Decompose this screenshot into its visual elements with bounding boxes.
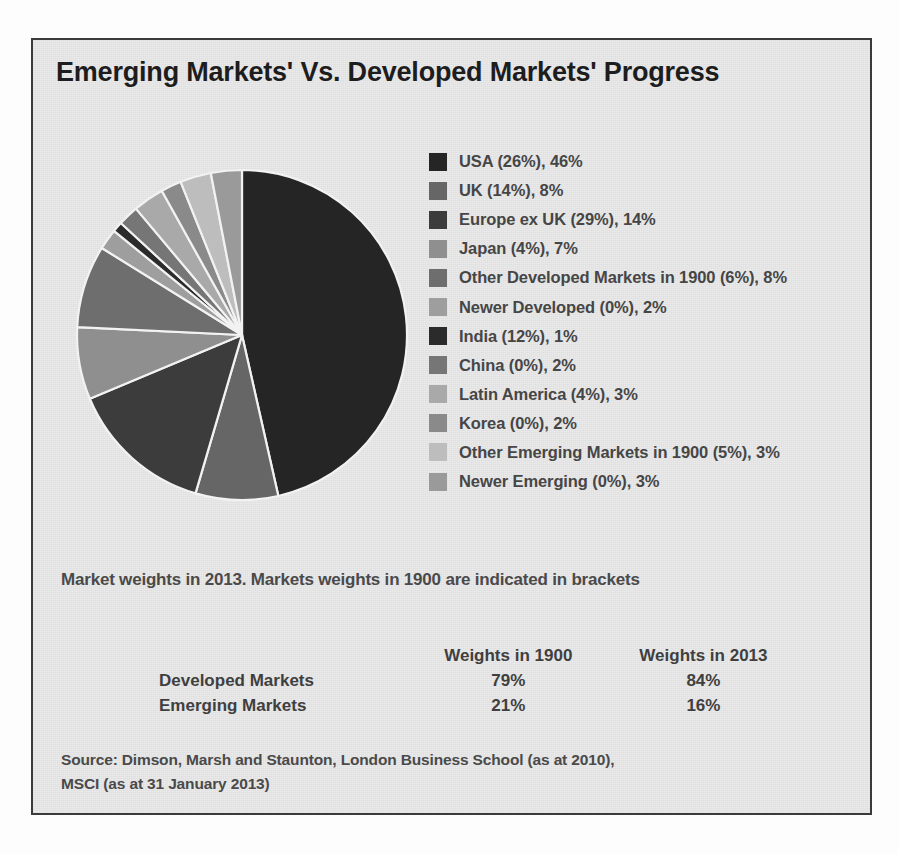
source-line-1: Source: Dimson, Marsh and Staunton, Lond…: [61, 748, 781, 772]
legend-color-swatch: [429, 211, 447, 229]
legend-color-swatch: [429, 356, 447, 374]
legend-item-label: USA (26%), 46%: [459, 152, 583, 171]
source-note: Source: Dimson, Marsh and Staunton, Lond…: [61, 748, 781, 796]
legend-item: China (0%), 2%: [429, 351, 859, 380]
legend-item-label: UK (14%), 8%: [459, 181, 563, 200]
column-header-weights-1900: Weights in 1900: [411, 643, 606, 668]
legend-item: UK (14%), 8%: [429, 176, 859, 205]
legend-item-label: Newer Emerging (0%), 3%: [459, 472, 659, 491]
legend-item: Other Developed Markets in 1900 (6%), 8%: [429, 263, 859, 292]
cell-weights-2013: 84%: [606, 668, 801, 693]
legend-item-label: Latin America (4%), 3%: [459, 385, 638, 404]
legend-item-label: India (12%), 1%: [459, 327, 578, 346]
legend-color-swatch: [429, 182, 447, 200]
source-line-2: MSCI (as at 31 January 2013): [61, 772, 781, 796]
cell-weights-1900: 79%: [411, 668, 606, 693]
table-row: Emerging Markets21%16%: [61, 693, 801, 718]
legend-item-label: Other Developed Markets in 1900 (6%), 8%: [459, 268, 787, 287]
cell-weights-1900: 21%: [411, 693, 606, 718]
legend-color-swatch: [429, 240, 447, 258]
column-header-blank: [61, 643, 411, 668]
weights-table-head: Weights in 1900 Weights in 2013: [61, 643, 801, 668]
legend-color-swatch: [429, 153, 447, 171]
legend-item: Newer Developed (0%), 2%: [429, 292, 859, 321]
legend-item: Korea (0%), 2%: [429, 409, 859, 438]
cell-weights-2013: 16%: [606, 693, 801, 718]
legend-item-label: Japan (4%), 7%: [459, 239, 578, 258]
legend-color-swatch: [429, 414, 447, 432]
legend-item-label: Newer Developed (0%), 2%: [459, 298, 667, 317]
chart-caption: Market weights in 2013. Markets weights …: [61, 570, 640, 590]
legend-item: Newer Emerging (0%), 3%: [429, 467, 859, 496]
weights-table: Weights in 1900 Weights in 2013 Develope…: [61, 643, 801, 718]
chart-legend: USA (26%), 46%UK (14%), 8%Europe ex UK (…: [429, 147, 859, 496]
scanned-page: Emerging Markets' Vs. Developed Markets'…: [0, 0, 899, 855]
row-label: Emerging Markets: [61, 693, 411, 718]
legend-item: Europe ex UK (29%), 14%: [429, 205, 859, 234]
legend-color-swatch: [429, 443, 447, 461]
pie-chart-svg: USA (26%), 46%UK (14%), 8%Europe ex UK (…: [74, 138, 410, 528]
legend-item: USA (26%), 46%: [429, 147, 859, 176]
legend-item: Japan (4%), 7%: [429, 234, 859, 263]
row-label: Developed Markets: [61, 668, 411, 693]
table-row: Developed Markets79%84%: [61, 668, 801, 693]
chart-figure-frame: Emerging Markets' Vs. Developed Markets'…: [31, 38, 872, 815]
legend-color-swatch: [429, 473, 447, 491]
table-header-row: Weights in 1900 Weights in 2013: [61, 643, 801, 668]
legend-item-label: Europe ex UK (29%), 14%: [459, 210, 656, 229]
legend-item: Latin America (4%), 3%: [429, 380, 859, 409]
legend-color-swatch: [429, 298, 447, 316]
legend-item: India (12%), 1%: [429, 322, 859, 351]
weights-table-body: Developed Markets79%84%Emerging Markets2…: [61, 668, 801, 718]
legend-color-swatch: [429, 327, 447, 345]
column-header-weights-2013: Weights in 2013: [606, 643, 801, 668]
pie-chart: USA (26%), 46%UK (14%), 8%Europe ex UK (…: [74, 138, 410, 528]
legend-item-label: Other Emerging Markets in 1900 (5%), 3%: [459, 443, 780, 462]
legend-item: Other Emerging Markets in 1900 (5%), 3%: [429, 438, 859, 467]
legend-item-label: Korea (0%), 2%: [459, 414, 577, 433]
pie-slice-group: USA (26%), 46%UK (14%), 8%Europe ex UK (…: [77, 170, 407, 500]
legend-item-label: China (0%), 2%: [459, 356, 576, 375]
legend-color-swatch: [429, 385, 447, 403]
page-title: Emerging Markets' Vs. Developed Markets'…: [56, 57, 836, 88]
legend-color-swatch: [429, 269, 447, 287]
